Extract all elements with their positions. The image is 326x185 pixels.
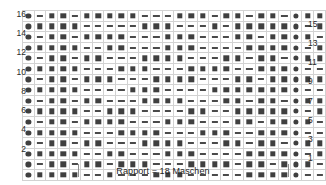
- stitch-cell: [267, 85, 279, 96]
- row-number-4: 4: [8, 125, 26, 135]
- stitch-cell: [185, 11, 197, 22]
- circle-symbol-icon: [26, 151, 31, 156]
- stitch-cell: [255, 148, 267, 159]
- square-symbol-icon: [177, 98, 182, 103]
- stitch-cell: [116, 127, 128, 138]
- row-number-7: 7: [308, 97, 326, 107]
- stitch-cell: [174, 117, 186, 128]
- stitch-cell: [92, 64, 104, 75]
- square-symbol-icon: [49, 13, 54, 18]
- stitch-cell: [92, 53, 104, 64]
- stitch-cell: [232, 32, 244, 43]
- stitch-cell: [162, 148, 174, 159]
- stitch-cell: [162, 64, 174, 75]
- square-symbol-icon: [270, 77, 275, 82]
- stitch-cell: [279, 138, 291, 149]
- square-symbol-icon: [49, 87, 54, 92]
- square-symbol-icon: [142, 130, 147, 135]
- square-symbol-icon: [142, 56, 147, 61]
- square-symbol-icon: [235, 24, 240, 29]
- square-symbol-icon: [72, 109, 77, 114]
- dash-symbol-icon: [72, 36, 78, 38]
- stitch-cell: [267, 138, 279, 149]
- dash-symbol-icon: [72, 78, 78, 80]
- stitch-cell: [244, 106, 256, 117]
- stitch-cell: [116, 21, 128, 32]
- stitch-cell: [279, 85, 291, 96]
- square-symbol-icon: [61, 119, 66, 124]
- stitch-cell: [104, 74, 116, 85]
- stitch-cell: [139, 42, 151, 53]
- square-symbol-icon: [49, 34, 54, 39]
- stitch-cell: [232, 95, 244, 106]
- stitch-cell: [46, 138, 58, 149]
- dash-symbol-icon: [235, 153, 241, 155]
- dash-symbol-icon: [200, 142, 206, 144]
- dash-symbol-icon: [258, 78, 264, 80]
- stitch-cell: [174, 95, 186, 106]
- square-symbol-icon: [107, 13, 112, 18]
- dash-symbol-icon: [83, 47, 89, 49]
- stitch-cell: [104, 64, 116, 75]
- stitch-cell: [92, 95, 104, 106]
- stitch-grid-body: [23, 11, 326, 181]
- dash-symbol-icon: [165, 132, 171, 134]
- circle-symbol-icon: [293, 109, 298, 114]
- circle-symbol-icon: [26, 13, 31, 18]
- stitch-cell: [81, 53, 93, 64]
- stitch-cell: [69, 21, 81, 32]
- row-number-11: 11: [308, 58, 326, 68]
- square-symbol-icon: [282, 151, 287, 156]
- dash-symbol-icon: [223, 78, 229, 80]
- stitch-cell: [151, 106, 163, 117]
- dash-symbol-icon: [258, 36, 264, 38]
- stitch-cell: [185, 74, 197, 85]
- stitch-cell: [57, 138, 69, 149]
- square-symbol-icon: [258, 109, 263, 114]
- stitch-row: [23, 85, 326, 96]
- stitch-cell: [255, 85, 267, 96]
- square-symbol-icon: [37, 87, 42, 92]
- square-symbol-icon: [72, 66, 77, 71]
- stitch-cell: [46, 95, 58, 106]
- stitch-cell: [185, 148, 197, 159]
- circle-symbol-icon: [293, 141, 298, 146]
- square-symbol-icon: [165, 119, 170, 124]
- dash-symbol-icon: [130, 142, 136, 144]
- stitch-cell: [255, 117, 267, 128]
- square-symbol-icon: [72, 45, 77, 50]
- stitch-cell: [290, 21, 302, 32]
- square-symbol-icon: [84, 77, 89, 82]
- dash-symbol-icon: [72, 142, 78, 144]
- square-symbol-icon: [37, 109, 42, 114]
- stitch-cell: [267, 64, 279, 75]
- stitch-cell: [232, 138, 244, 149]
- circle-symbol-icon: [26, 56, 31, 61]
- stitch-cell: [81, 148, 93, 159]
- stitch-cell: [185, 85, 197, 96]
- stitch-cell: [162, 106, 174, 117]
- stitch-cell: [232, 11, 244, 22]
- row-number-8: 8: [8, 87, 26, 97]
- stitch-cell: [116, 148, 128, 159]
- stitch-cell: [267, 148, 279, 159]
- stitch-cell: [92, 42, 104, 53]
- square-symbol-icon: [224, 66, 229, 71]
- dash-symbol-icon: [235, 132, 241, 134]
- stitch-cell: [279, 32, 291, 43]
- stitch-cell: [290, 117, 302, 128]
- dash-symbol-icon: [188, 100, 194, 102]
- dash-symbol-icon: [130, 25, 136, 27]
- square-symbol-icon: [282, 109, 287, 114]
- dash-symbol-icon: [316, 68, 322, 70]
- dash-symbol-icon: [72, 121, 78, 123]
- dash-symbol-icon: [246, 15, 252, 17]
- dash-symbol-icon: [305, 89, 311, 91]
- dash-symbol-icon: [130, 100, 136, 102]
- stitch-cell: [267, 53, 279, 64]
- stitch-cell: [197, 74, 209, 85]
- square-symbol-icon: [177, 151, 182, 156]
- stitch-cell: [232, 74, 244, 85]
- dash-symbol-icon: [142, 110, 148, 112]
- dash-symbol-icon: [153, 153, 159, 155]
